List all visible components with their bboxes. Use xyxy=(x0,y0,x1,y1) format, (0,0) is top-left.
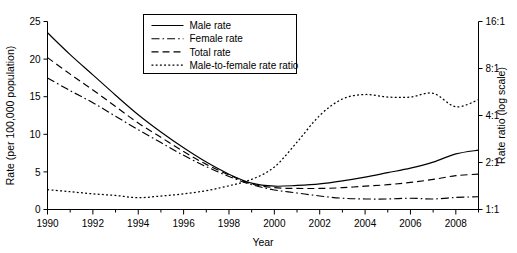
x-axis-title: Year xyxy=(252,236,274,248)
series-line xyxy=(48,78,479,199)
y-tick-label-right: 16:1 xyxy=(486,16,506,27)
x-tick-label: 2006 xyxy=(399,218,422,229)
x-tick-label: 1996 xyxy=(172,218,195,229)
x-tick-label: 2002 xyxy=(309,218,332,229)
legend-label-2: Female rate xyxy=(190,33,244,44)
x-tick-label: 2004 xyxy=(354,218,377,229)
series-line xyxy=(48,58,479,189)
legend-label-3: Total rate xyxy=(190,47,232,58)
y-tick-label-left: 15 xyxy=(29,91,41,102)
chart-figure: 05101520251:12:14:18:116:119901992199419… xyxy=(0,0,517,253)
y-tick-label-left: 10 xyxy=(29,129,41,140)
x-tick-label: 1994 xyxy=(127,218,150,229)
x-tick-label: 1990 xyxy=(36,218,59,229)
line-chart: 05101520251:12:14:18:116:119901992199419… xyxy=(0,0,517,253)
y-tick-label-left: 0 xyxy=(35,204,41,215)
x-tick-label: 2008 xyxy=(445,218,468,229)
x-tick-label: 1992 xyxy=(82,218,105,229)
series-line xyxy=(48,93,479,198)
x-tick-label: 2000 xyxy=(263,218,286,229)
legend-label-1: Male rate xyxy=(190,20,232,31)
y-axis-title-left: Rate (per 100,000 population) xyxy=(4,46,16,186)
legend-label-4: Male-to-female rate ratio xyxy=(190,60,299,71)
y-tick-label-left: 5 xyxy=(35,167,41,178)
y-tick-label-left: 25 xyxy=(29,16,41,27)
y-tick-label-right: 1:1 xyxy=(486,204,500,215)
x-tick-label: 1998 xyxy=(218,218,241,229)
y-tick-label-left: 20 xyxy=(29,54,41,65)
y-axis-title-right: Rate ratio (log scale) xyxy=(495,67,507,164)
